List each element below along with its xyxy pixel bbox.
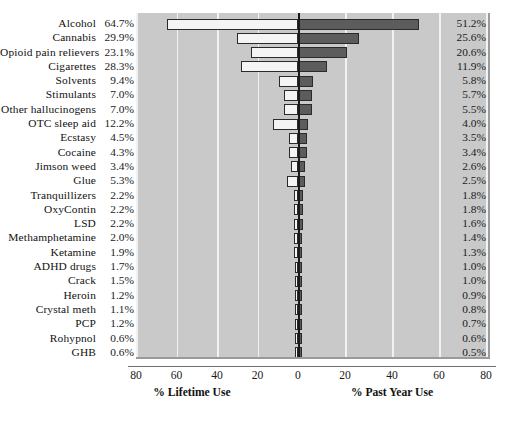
table-row: Crack1.5%1.0% — [0, 273, 515, 288]
past-year-use-value: 3.5% — [446, 130, 486, 145]
category-label: OTC sleep aid — [0, 116, 96, 131]
lifetime-use-value: 5.3% — [96, 173, 134, 188]
table-row: Ecstasy4.5%3.5% — [0, 130, 515, 145]
table-row: Cocaine4.3%3.4% — [0, 145, 515, 160]
axis-tick-label: 0 — [281, 369, 315, 382]
bar-past-year-use — [299, 33, 359, 44]
bar-past-year-use — [299, 61, 327, 72]
bar-past-year-use — [299, 133, 307, 144]
lifetime-use-value: 2.0% — [96, 230, 134, 245]
category-label: Alcohol — [0, 16, 96, 31]
table-row: Rohypnol0.6%0.6% — [0, 331, 515, 346]
category-label: Methamphetamine — [0, 230, 96, 245]
bar-past-year-use — [299, 176, 305, 187]
past-year-use-value: 20.6% — [446, 45, 486, 60]
lifetime-use-value: 1.1% — [96, 302, 134, 317]
category-label: Opioid pain relievers — [0, 45, 96, 60]
lifetime-use-value: 1.5% — [96, 273, 134, 288]
past-year-use-value: 0.6% — [446, 331, 486, 346]
lifetime-use-value: 7.0% — [96, 87, 134, 102]
lifetime-use-value: 1.9% — [96, 245, 134, 260]
bar-past-year-use — [299, 19, 419, 30]
bar-lifetime-use — [289, 147, 298, 158]
category-label: Tranquillizers — [0, 188, 96, 203]
bar-lifetime-use — [287, 176, 298, 187]
bar-lifetime-use — [291, 161, 298, 172]
bar-lifetime-use — [167, 19, 298, 30]
axis-tick-label: 20 — [328, 369, 362, 382]
category-label: Ecstasy — [0, 130, 96, 145]
category-label: ADHD drugs — [0, 259, 96, 274]
lifetime-use-value: 2.2% — [96, 202, 134, 217]
bar-lifetime-use — [284, 104, 298, 115]
bar-past-year-use — [299, 161, 305, 172]
bar-past-year-use — [299, 119, 308, 130]
axis-tick-label: 20 — [241, 369, 275, 382]
lifetime-use-value: 7.0% — [96, 102, 134, 117]
axis-tick-label: 40 — [375, 369, 409, 382]
past-year-use-value: 2.5% — [446, 173, 486, 188]
category-label: Crystal meth — [0, 302, 96, 317]
table-row: ADHD drugs1.7%1.0% — [0, 259, 515, 274]
past-year-use-value: 1.6% — [446, 216, 486, 231]
table-row: Glue5.3%2.5% — [0, 173, 515, 188]
bar-past-year-use — [299, 47, 347, 58]
table-row: Stimulants7.0%5.7% — [0, 87, 515, 102]
category-label: PCP — [0, 316, 96, 331]
table-row: Jimson weed3.4%2.6% — [0, 159, 515, 174]
category-label: Other hallucinogens — [0, 102, 96, 117]
lifetime-use-value: 1.7% — [96, 259, 134, 274]
past-year-use-value: 1.0% — [446, 259, 486, 274]
table-row: OTC sleep aid12.2%4.0% — [0, 116, 515, 131]
table-row: OxyContin2.2%1.8% — [0, 202, 515, 217]
bar-past-year-use — [299, 147, 307, 158]
lifetime-use-value: 23.1% — [96, 45, 134, 60]
zero-axis-line — [298, 13, 300, 357]
lifetime-use-value: 3.4% — [96, 159, 134, 174]
past-year-use-value: 3.4% — [446, 145, 486, 160]
lifetime-use-value: 2.2% — [96, 216, 134, 231]
past-year-use-value: 1.8% — [446, 188, 486, 203]
lifetime-use-value: 12.2% — [96, 116, 134, 131]
bar-past-year-use — [299, 76, 313, 87]
axis-tick-label: 60 — [160, 369, 194, 382]
past-year-use-value: 0.8% — [446, 302, 486, 317]
table-row: LSD2.2%1.6% — [0, 216, 515, 231]
past-year-use-value: 11.9% — [446, 59, 486, 74]
bar-lifetime-use — [279, 76, 298, 87]
lifetime-use-value: 1.2% — [96, 288, 134, 303]
past-year-use-value: 5.5% — [446, 102, 486, 117]
lifetime-use-value: 1.2% — [96, 316, 134, 331]
lifetime-use-value: 4.5% — [96, 130, 134, 145]
lifetime-use-value: 64.7% — [96, 16, 134, 31]
category-label: Jimson weed — [0, 159, 96, 174]
bar-past-year-use — [299, 104, 312, 115]
category-label: Cannabis — [0, 30, 96, 45]
table-row: Heroin1.2%0.9% — [0, 288, 515, 303]
lifetime-use-value: 28.3% — [96, 59, 134, 74]
category-label: Heroin — [0, 288, 96, 303]
table-row: Methamphetamine2.0%1.4% — [0, 230, 515, 245]
past-year-use-value: 1.8% — [446, 202, 486, 217]
past-year-use-value: 0.7% — [446, 316, 486, 331]
table-row: Other hallucinogens7.0%5.5% — [0, 102, 515, 117]
lifetime-use-value: 9.4% — [96, 73, 134, 88]
lifetime-use-value: 29.9% — [96, 30, 134, 45]
bar-lifetime-use — [237, 33, 298, 44]
table-row: PCP1.2%0.7% — [0, 316, 515, 331]
category-label: Cocaine — [0, 145, 96, 160]
axis-tick-label: 80 — [469, 369, 503, 382]
x-axis-title-right: % Past Year Use — [312, 386, 472, 399]
category-label: Stimulants — [0, 87, 96, 102]
past-year-use-value: 0.9% — [446, 288, 486, 303]
table-row: Tranquillizers2.2%1.8% — [0, 188, 515, 203]
past-year-use-value: 5.8% — [446, 73, 486, 88]
table-row: Solvents9.4%5.8% — [0, 73, 515, 88]
past-year-use-value: 1.4% — [446, 230, 486, 245]
category-label: Crack — [0, 273, 96, 288]
lifetime-use-value: 0.6% — [96, 345, 134, 360]
bar-lifetime-use — [289, 133, 298, 144]
category-label: Ketamine — [0, 245, 96, 260]
lifetime-use-value: 2.2% — [96, 188, 134, 203]
category-label: OxyContin — [0, 202, 96, 217]
